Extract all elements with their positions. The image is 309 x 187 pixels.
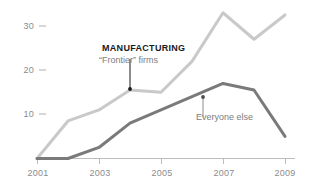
line-chart: 30 20 10 2001 2003 2005 2007 2009 MANUFA… <box>0 0 309 187</box>
x-axis-label-2005: 2005 <box>137 168 187 178</box>
annotation-label-everyone-else: Everyone else <box>196 112 253 122</box>
y-axis-label-10: 10 <box>6 109 34 119</box>
y-axis-ticks <box>39 26 46 114</box>
y-axis-label-20: 20 <box>6 65 34 75</box>
x-axis-ticks <box>38 159 286 165</box>
x-axis-label-2007: 2007 <box>199 168 249 178</box>
y-axis-label-30: 30 <box>6 21 34 31</box>
x-axis-label-2001: 2001 <box>13 168 63 178</box>
series-line-frontier-firms <box>37 13 285 159</box>
x-axis-label-2003: 2003 <box>75 168 125 178</box>
annotation-subtitle-frontier-firms: “Frontier” firms <box>99 55 158 65</box>
x-axis-label-2009: 2009 <box>260 168 309 178</box>
chart-plot-area <box>0 0 309 187</box>
annotation-title-manufacturing: MANUFACTURING <box>102 43 185 53</box>
